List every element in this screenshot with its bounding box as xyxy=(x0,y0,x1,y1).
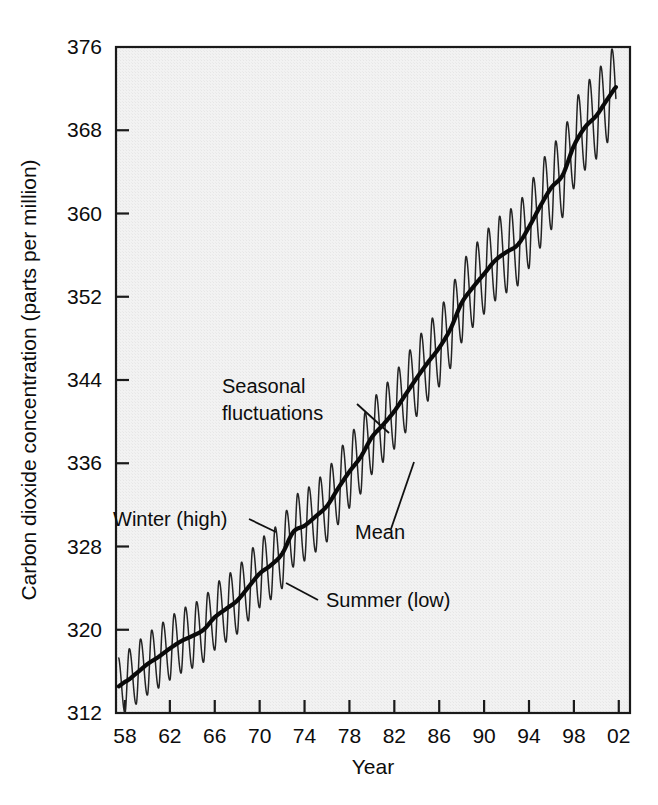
x-tick-label-94: 94 xyxy=(517,724,541,747)
x-tick-label-62: 62 xyxy=(158,724,181,747)
chart-figure: 312320328336344352360368376 586266707478… xyxy=(0,0,658,805)
y-tick-label-360: 360 xyxy=(67,202,102,225)
x-tick-label-98: 98 xyxy=(562,724,585,747)
x-tick-label-86: 86 xyxy=(428,724,451,747)
x-tick-label-82: 82 xyxy=(383,724,406,747)
co2-line-chart: 312320328336344352360368376 586266707478… xyxy=(0,0,658,805)
annotation-label-seasonal-fluctuations: Seasonal xyxy=(222,375,305,397)
x-tick-label-02: 02 xyxy=(607,724,630,747)
annotation-label-mean: Mean xyxy=(355,521,405,543)
y-tick-label-352: 352 xyxy=(67,285,102,308)
x-tick-label-74: 74 xyxy=(293,724,317,747)
x-tick-label-70: 70 xyxy=(248,724,271,747)
y-axis-title: Carbon dioxide concentration (parts per … xyxy=(17,159,40,600)
y-tick-label-320: 320 xyxy=(67,618,102,641)
x-tick-label-90: 90 xyxy=(472,724,495,747)
annotation-label-winter-high: Winter (high) xyxy=(113,508,227,530)
x-tick-label-66: 66 xyxy=(203,724,226,747)
y-tick-label-344: 344 xyxy=(67,368,102,391)
annotation-label-seasonal-fluctuations: fluctuations xyxy=(222,402,323,424)
y-tick-label-376: 376 xyxy=(67,35,102,58)
x-axis-title: Year xyxy=(352,755,394,778)
y-tick-label-312: 312 xyxy=(67,701,102,724)
annotation-label-summer-low: Summer (low) xyxy=(326,589,450,611)
y-axis-tick-labels: 312320328336344352360368376 xyxy=(67,35,102,724)
x-tick-label-78: 78 xyxy=(338,724,361,747)
y-tick-label-328: 328 xyxy=(67,535,102,558)
y-tick-label-336: 336 xyxy=(67,451,102,474)
x-tick-label-58: 58 xyxy=(113,724,136,747)
plot-area-background xyxy=(116,47,630,713)
y-tick-label-368: 368 xyxy=(67,118,102,141)
